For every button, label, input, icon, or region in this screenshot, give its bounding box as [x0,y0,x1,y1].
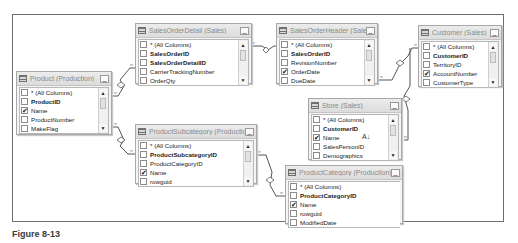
scroll-down-icon[interactable]: ▼ [99,124,107,132]
minimize-button[interactable]: _ [490,29,499,37]
vertical-scrollbar[interactable]: ▲ ▼ [243,141,253,186]
column-row[interactable]: TerritoryID [422,60,498,69]
scroll-down-icon[interactable]: ▼ [389,151,397,159]
column-row[interactable]: ProductID [20,97,108,106]
column-row[interactable]: Demographics [312,151,398,160]
vertical-scrollbar[interactable]: ▲ ▼ [98,88,108,133]
scroll-down-icon[interactable]: ▼ [244,177,252,185]
column-row[interactable]: * (All Columns) [312,115,398,124]
scroll-down-icon[interactable]: ▼ [365,76,373,84]
column-checkbox[interactable] [423,43,430,50]
column-row[interactable]: ✔AccountNumber [422,69,498,78]
column-row[interactable]: rowguid [139,177,253,186]
column-checkbox[interactable] [290,219,297,226]
scroll-thumb[interactable] [240,50,246,61]
table-productcategory[interactable]: ProductCategory (Production) _ * (All Co… [285,165,403,224]
column-checkbox[interactable] [21,125,28,132]
table-product[interactable]: Product (Production) _ * (All Columns) P… [16,71,112,135]
column-checkbox[interactable] [313,125,320,132]
column-row[interactable]: * (All Columns) [139,40,248,49]
column-row[interactable]: SalesPersonID [312,142,398,151]
column-checkbox[interactable] [290,210,297,217]
scroll-up-icon[interactable]: ▲ [365,41,373,49]
column-row[interactable]: * (All Columns) [20,88,108,97]
column-row[interactable]: * (All Columns) [422,42,498,51]
column-checkbox[interactable] [423,52,430,59]
minimize-button[interactable]: _ [391,169,400,177]
scroll-up-icon[interactable]: ▲ [489,43,497,51]
scroll-thumb[interactable] [366,50,372,61]
column-row[interactable]: SalesOrderDetailID [139,58,248,67]
column-row[interactable]: ProductNumber [20,115,108,124]
table-header[interactable]: Product (Production) _ [17,72,111,86]
table-productsubcategory[interactable]: ProductSubcategory (Production) _ * (All… [135,124,257,184]
scroll-up-icon[interactable]: ▲ [239,41,247,49]
column-row[interactable]: CustomerType [422,78,498,87]
vertical-scrollbar[interactable]: ▲ ▼ [238,40,248,85]
scroll-thumb[interactable] [490,52,496,63]
table-customer[interactable]: Customer (Sales) _ * (All Columns) Custo… [418,25,502,87]
column-checkbox[interactable] [140,50,147,57]
column-checkbox[interactable] [21,116,28,123]
minimize-button[interactable]: _ [390,102,399,110]
column-row[interactable]: * (All Columns) [289,182,400,191]
column-checkbox[interactable] [281,77,288,84]
column-row[interactable]: ✔Name [139,168,253,177]
column-row[interactable]: CarrierTrackingNumber [139,67,248,76]
table-header[interactable]: SalesOrderHeader (Sales) _ [277,24,377,38]
column-row[interactable]: ModifiedDate [289,218,400,227]
table-header[interactable]: ProductCategory (Production) _ [286,166,402,180]
column-checkbox[interactable] [140,151,147,158]
column-checkbox-checked[interactable]: ✔ [140,169,147,176]
column-checkbox[interactable] [140,68,147,75]
column-row[interactable]: ✔Name [312,133,398,142]
scroll-up-icon[interactable]: ▲ [244,142,252,150]
table-salesorderheader[interactable]: SalesOrderHeader (Sales) _ * (All Column… [276,23,378,84]
minimize-button[interactable]: _ [245,128,254,136]
column-checkbox[interactable] [140,142,147,149]
column-row[interactable]: ✔Name [289,200,400,209]
scroll-thumb[interactable] [100,98,106,109]
table-header[interactable]: Store (Sales) _ [309,99,401,113]
column-row[interactable]: ✔OrderDate [280,67,374,76]
scroll-down-icon[interactable]: ▼ [489,78,497,86]
column-checkbox[interactable] [313,116,320,123]
column-checkbox-checked[interactable]: ✔ [290,201,297,208]
column-row[interactable]: OrderQty [139,76,248,85]
table-salesorderdetail[interactable]: SalesOrderDetail (Sales) _ * (All Column… [135,23,252,84]
column-checkbox-checked[interactable]: ✔ [281,68,288,75]
minimize-button[interactable]: _ [240,27,249,35]
column-checkbox[interactable] [21,98,28,105]
column-checkbox[interactable] [290,183,297,190]
column-checkbox[interactable] [290,192,297,199]
table-store[interactable]: Store (Sales) _ * (All Columns) Customer… [308,98,402,160]
table-header[interactable]: SalesOrderDetail (Sales) _ [136,24,251,38]
vertical-scrollbar[interactable]: ▲ ▼ [488,42,498,87]
column-checkbox[interactable] [423,79,430,86]
column-row[interactable]: ProductCategoryID [139,159,253,168]
column-checkbox-checked[interactable]: ✔ [21,107,28,114]
column-row[interactable]: ProductSubcategoryID [139,150,253,159]
column-row[interactable]: ProductCategoryID [289,191,400,200]
vertical-scrollbar[interactable]: ▲ ▼ [364,40,374,85]
column-row[interactable]: RevisionNumber [280,58,374,67]
column-row[interactable]: DueDate [280,76,374,85]
column-checkbox[interactable] [140,178,147,185]
column-row[interactable]: * (All Columns) [280,40,374,49]
column-checkbox[interactable] [313,143,320,150]
column-row[interactable]: CustomerID [312,124,398,133]
column-checkbox[interactable] [281,59,288,66]
column-checkbox[interactable] [423,61,430,68]
vertical-scrollbar[interactable]: ▲ ▼ [388,115,398,160]
column-checkbox[interactable] [21,89,28,96]
column-row[interactable]: rowguid [289,209,400,218]
column-checkbox[interactable] [140,160,147,167]
column-checkbox-checked[interactable]: ✔ [313,134,320,141]
scroll-down-icon[interactable]: ▼ [239,76,247,84]
column-row[interactable]: MakeFlag [20,124,108,133]
table-header[interactable]: Customer (Sales) _ [419,26,501,40]
column-checkbox[interactable] [281,50,288,57]
column-row[interactable]: SalesOrderID [139,49,248,58]
column-checkbox[interactable] [281,41,288,48]
column-checkbox[interactable] [140,41,147,48]
